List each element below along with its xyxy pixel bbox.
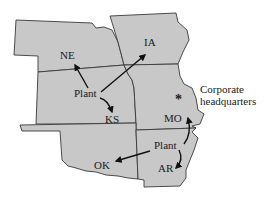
- label-ia: IA: [144, 36, 156, 48]
- state-oklahoma: [20, 123, 138, 179]
- label-ok: OK: [94, 159, 110, 171]
- headquarters-marker-icon: *: [175, 92, 182, 107]
- state-arkansas: [136, 128, 198, 187]
- label-ne: NE: [60, 49, 75, 61]
- label-ks: KS: [105, 113, 119, 125]
- label-mo: MO: [164, 112, 182, 124]
- regional-map: NE IA KS MO OK AR Plant Plant * Corporat…: [0, 0, 270, 204]
- label-plant-2: Plant: [154, 139, 177, 151]
- label-plant-1: Plant: [74, 87, 97, 99]
- hq-label-line2: headquarters: [200, 95, 256, 107]
- state-nebraska: [14, 20, 124, 72]
- hq-label-line1: Corporate: [200, 83, 244, 95]
- label-ar: AR: [158, 162, 174, 174]
